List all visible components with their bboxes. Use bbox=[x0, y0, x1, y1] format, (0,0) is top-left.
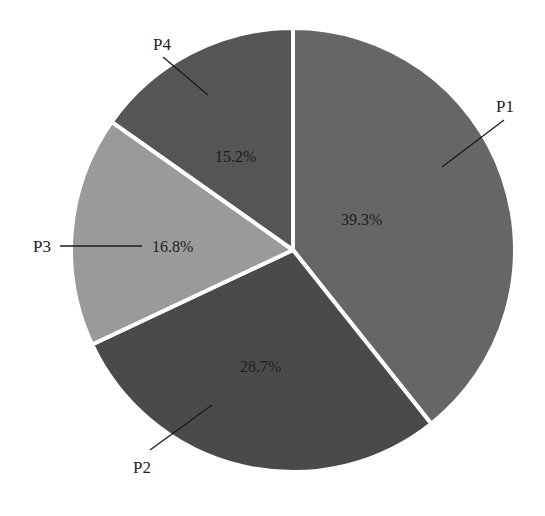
pct-p1: 39.3% bbox=[341, 211, 382, 228]
pie-slices bbox=[71, 28, 515, 472]
label-p4: P4 bbox=[153, 35, 171, 54]
pct-p3: 16.8% bbox=[152, 238, 193, 255]
label-p3: P3 bbox=[33, 237, 51, 256]
label-p2: P2 bbox=[133, 458, 151, 477]
pct-p2: 28.7% bbox=[240, 358, 281, 375]
label-p1: P1 bbox=[496, 97, 514, 116]
pie-chart: P1 P2 P3 P4 39.3% 28.7% 16.8% 15.2% bbox=[0, 0, 545, 516]
pct-p4: 15.2% bbox=[215, 148, 256, 165]
